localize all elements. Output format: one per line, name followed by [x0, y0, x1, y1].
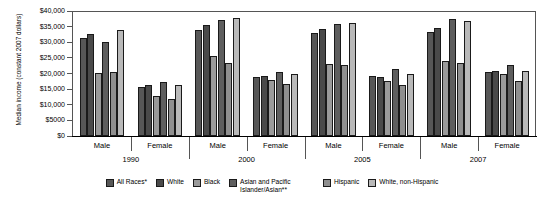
bar — [492, 71, 499, 136]
bar — [349, 23, 356, 136]
bar-group — [73, 11, 131, 136]
bar — [457, 63, 464, 136]
legend-item: Asian and Pacific Islander/Asian** — [229, 178, 314, 193]
bar — [369, 76, 376, 136]
bar — [210, 56, 217, 136]
bar-group — [247, 11, 305, 136]
legend-swatch — [229, 179, 237, 187]
bar — [434, 28, 441, 136]
y-axis-tick: $20,000 — [0, 70, 72, 78]
bar — [384, 81, 391, 136]
y-axis-tick: $0 — [0, 132, 72, 140]
chart-container: Median income (constant 2007 dollars) $4… — [0, 0, 544, 208]
x-axis-group-label: Male — [73, 141, 131, 150]
bar-groups — [73, 11, 536, 136]
legend-label: Hispanic — [334, 178, 359, 186]
y-axis-tick-group: $40,000$35,000$30,000$25,000$20,000$15,0… — [0, 0, 72, 208]
x-axis-year-label: 2000 — [189, 155, 305, 164]
legend-item: Black — [193, 178, 220, 187]
legend-label: White — [167, 178, 184, 186]
bar — [407, 74, 414, 137]
x-axis-group-label: Female — [362, 141, 420, 150]
y-axis-tick-label: $40,000 — [40, 7, 65, 15]
bar — [168, 99, 175, 136]
y-axis-tick: $40,000 — [0, 7, 72, 15]
bar-group — [189, 11, 247, 136]
x-axis-group-label: Female — [131, 141, 189, 150]
y-axis-tick-label: $10,000 — [40, 101, 65, 109]
x-axis-year-label: 2005 — [305, 155, 421, 164]
bar — [464, 21, 471, 136]
legend-swatch — [106, 179, 114, 187]
x-axis-separator — [247, 137, 248, 151]
y-axis-tick-label: $30,000 — [40, 38, 65, 46]
bar — [110, 72, 117, 136]
legend-item: All Races* — [106, 178, 147, 187]
x-axis-group-label: Male — [189, 141, 247, 150]
bar — [442, 61, 449, 136]
legend-swatch — [368, 179, 376, 187]
bar — [145, 85, 152, 136]
bar — [233, 18, 240, 136]
x-axis-group-label: Male — [420, 141, 478, 150]
bar — [95, 73, 102, 136]
bar — [427, 32, 434, 136]
bar — [160, 82, 167, 136]
bar — [377, 77, 384, 136]
bar — [341, 65, 348, 136]
bar — [515, 81, 522, 136]
y-axis-tick: $25,000 — [0, 54, 72, 62]
bar — [218, 20, 225, 136]
bar — [392, 69, 399, 136]
bar — [225, 63, 232, 136]
bar — [195, 30, 202, 136]
x-axis-year-label: 2007 — [420, 155, 536, 164]
bar — [175, 85, 182, 136]
y-axis-tick-label: $20,000 — [40, 70, 65, 78]
bar — [80, 38, 87, 136]
bar — [276, 72, 283, 136]
bar-group — [478, 11, 536, 136]
bar — [485, 72, 492, 136]
y-axis-tick: $35,000 — [0, 23, 72, 31]
bar — [334, 24, 341, 137]
bar — [253, 77, 260, 136]
x-axis-group-label: Male — [305, 141, 363, 150]
bar-group — [420, 11, 478, 136]
x-axis-year-label: 1990 — [73, 155, 189, 164]
y-axis-tick-label: $5000 — [46, 116, 65, 124]
legend-swatch — [193, 179, 201, 187]
bar — [102, 42, 109, 136]
bar — [522, 71, 529, 136]
legend-swatch — [156, 179, 164, 187]
legend-label: All Races* — [117, 178, 147, 186]
y-axis-tick-label: $15,000 — [40, 85, 65, 93]
y-axis-tick: $15,000 — [0, 85, 72, 93]
x-axis-separator — [131, 137, 132, 151]
bar — [87, 34, 94, 136]
legend-item: Hispanic — [323, 178, 359, 187]
legend-label: Black — [204, 178, 220, 186]
bar-group — [131, 11, 189, 136]
x-axis-separator — [362, 137, 363, 151]
legend-label: Asian and Pacific Islander/Asian** — [240, 178, 314, 193]
bar-group — [305, 11, 363, 136]
bar — [268, 80, 275, 136]
y-axis-tick: $5000 — [0, 116, 72, 124]
y-axis-tick-label: $25,000 — [40, 54, 65, 62]
y-axis-tick: $10,000 — [0, 101, 72, 109]
bar — [203, 25, 210, 136]
bar — [449, 19, 456, 136]
bar — [319, 29, 326, 136]
legend-label: White, non-Hispanic — [379, 178, 438, 186]
x-axis-group-label: Female — [247, 141, 305, 150]
legend-item: White — [156, 178, 184, 187]
bar — [138, 87, 145, 136]
bar — [399, 85, 406, 136]
bar — [326, 64, 333, 136]
x-axis-separator — [478, 137, 479, 151]
y-axis-tick: $30,000 — [0, 38, 72, 46]
bar — [311, 33, 318, 136]
bar — [261, 76, 268, 136]
y-axis-tick-label: $35,000 — [40, 23, 65, 31]
